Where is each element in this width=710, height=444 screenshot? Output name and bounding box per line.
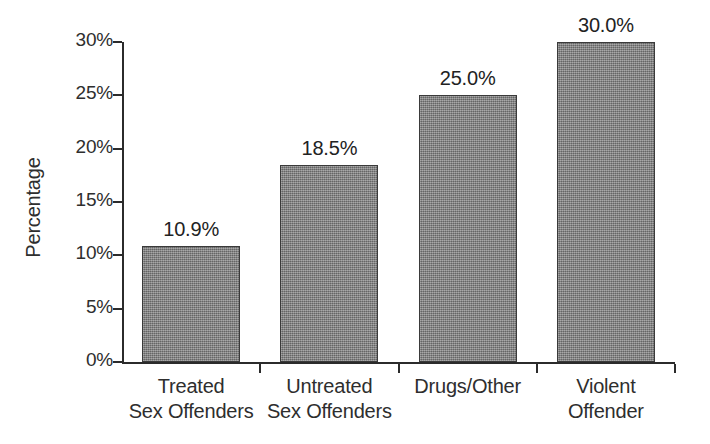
x-axis-tick-mark <box>259 364 261 373</box>
y-axis-tick-label: 15% <box>47 189 113 211</box>
y-axis-tick-mark <box>113 41 122 43</box>
bar[interactable] <box>557 42 655 362</box>
x-axis-tick-mark <box>674 364 676 373</box>
x-axis-category-label: ViolentOffender <box>516 374 696 424</box>
y-axis-tick-mark <box>113 254 122 256</box>
y-axis-title: Percentage <box>22 128 45 288</box>
bar-chart: Percentage 0%5%10%15%20%25%30% 10.9%18.5… <box>0 0 710 444</box>
bar[interactable] <box>280 165 378 362</box>
bar-value-label: 30.0% <box>536 14 676 37</box>
bar[interactable] <box>142 246 240 362</box>
category-label-line: Sex Offenders <box>239 399 419 424</box>
y-axis-line <box>122 42 124 364</box>
bar-value-label: 10.9% <box>121 218 261 241</box>
y-axis-tick-mark <box>113 148 122 150</box>
y-axis-tick-label: 25% <box>47 82 113 104</box>
y-axis-tick-label: 10% <box>47 242 113 264</box>
x-axis-tick-mark <box>536 364 538 373</box>
bar-value-label: 25.0% <box>398 67 538 90</box>
y-axis-tick-mark <box>113 361 122 363</box>
y-axis-tick-mark <box>113 201 122 203</box>
x-axis-tick-mark <box>398 364 400 373</box>
y-axis-tick-mark <box>113 308 122 310</box>
plot-area: Percentage 0%5%10%15%20%25%30% 10.9%18.5… <box>0 0 710 444</box>
category-label-line: Violent <box>516 374 696 399</box>
y-axis-tick-mark <box>113 94 122 96</box>
category-label-line: Offender <box>516 399 696 424</box>
y-axis-tick-label: 20% <box>47 136 113 158</box>
y-axis-tick-label: 5% <box>47 296 113 318</box>
bar[interactable] <box>419 95 517 362</box>
y-axis-tick-label: 0% <box>47 349 113 371</box>
y-axis-tick-label: 30% <box>47 29 113 51</box>
bar-value-label: 18.5% <box>259 137 399 160</box>
